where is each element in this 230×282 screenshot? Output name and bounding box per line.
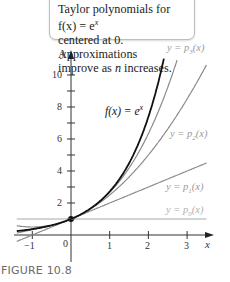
p2-label: y = p2(x) xyxy=(170,128,207,142)
figure-label: FIGURE 10.8 xyxy=(1,264,72,277)
curve-y-p1-x- xyxy=(17,163,207,241)
x-tick-label: 3 xyxy=(184,240,189,251)
p1-label: y = p1(x) xyxy=(166,181,203,195)
p0-label: y = p0(x) xyxy=(166,204,203,218)
x-tick-label: 2 xyxy=(145,240,150,251)
x-tick-label: 0 xyxy=(63,238,68,249)
y-tick-label: 4 xyxy=(57,165,62,176)
y-axis-label: y xyxy=(61,47,66,59)
y-tick-label: 6 xyxy=(57,133,62,144)
y-tick-label: 2 xyxy=(57,197,62,208)
f-label: f(x) = ex xyxy=(105,103,143,117)
x-tick-label: −1 xyxy=(24,240,35,251)
p3-label: y = p3(x) xyxy=(167,42,204,56)
curve-y-p3-x- xyxy=(17,60,177,233)
y-axis-arrow-icon xyxy=(68,50,74,59)
y-tick-label: 8 xyxy=(57,101,62,112)
y-tick-label: 10 xyxy=(52,69,62,80)
x-tick-label: 1 xyxy=(107,240,112,251)
curve-f-x-e-x xyxy=(17,59,164,232)
x-axis-label: x xyxy=(205,238,210,250)
